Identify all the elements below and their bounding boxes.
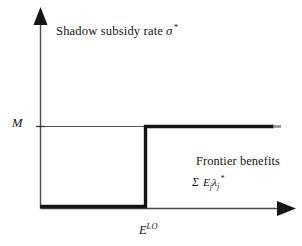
summation-symbol: Σ <box>192 176 203 189</box>
step-function-figure: Shadow subsidy rateσ* M ELO Frontier ben… <box>0 0 302 246</box>
chart-title-text: Shadow subsidy rate <box>56 24 163 38</box>
x-axis-label-superscript: LO <box>147 222 158 231</box>
formula-star-superscript: * <box>219 174 224 183</box>
x-axis-label-base: E <box>139 223 147 237</box>
formula-variable-e: E <box>203 176 210 188</box>
frontier-benefits-label: Frontier benefits <box>196 155 280 169</box>
y-axis-value-label: M <box>12 117 23 131</box>
chart-title: Shadow subsidy rateσ* <box>56 23 178 39</box>
sigma-star-superscript: * <box>173 22 179 32</box>
x-axis-arrowhead <box>277 201 296 216</box>
y-axis-arrowhead <box>34 7 48 25</box>
frontier-benefits-formula: ΣEjλj* <box>192 175 224 192</box>
x-axis-label: ELO <box>139 222 158 238</box>
formula-subscript-j-2: j <box>217 182 219 191</box>
sigma-symbol: σ <box>163 23 173 38</box>
